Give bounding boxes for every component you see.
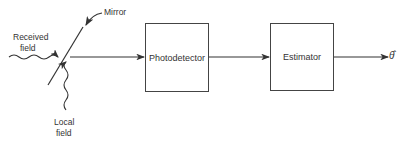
estimator-block: Estimator: [270, 23, 334, 91]
photodetector-block: Photodetector: [145, 23, 209, 92]
received-field-label-line1: Received: [13, 32, 48, 43]
received-field-wave: [9, 55, 58, 59]
mirror-line: [48, 27, 83, 85]
estimator-label: Estimator: [283, 52, 321, 62]
received-field-label-line2: field: [20, 43, 36, 54]
photodetector-label: Photodetector: [149, 53, 205, 63]
local-field-wave: [64, 62, 68, 110]
mirror-label: Mirror: [104, 7, 126, 18]
output-theta-hat-label: θ̂: [389, 50, 394, 61]
mirror-pointer-arrow: [86, 13, 102, 25]
local-field-label-line2: field: [56, 128, 72, 139]
local-field-label-line1: Local: [54, 117, 74, 128]
